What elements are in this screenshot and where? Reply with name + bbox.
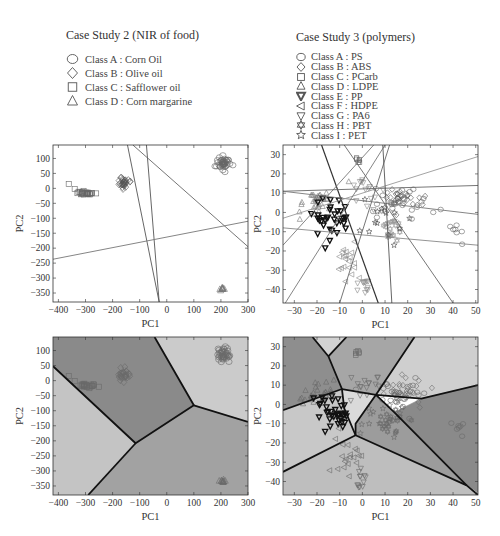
x-tick-label: 50 xyxy=(471,498,481,508)
x-tick-label: −30 xyxy=(287,498,302,508)
x-tick-label: 200 xyxy=(214,305,229,315)
x-tick-label: 50 xyxy=(471,306,481,316)
y-tick-label: −50 xyxy=(35,391,50,401)
y-tick-label: 30 xyxy=(271,150,281,160)
y-tick-label: −10 xyxy=(265,419,280,429)
x-tick-label: 0 xyxy=(360,498,365,508)
y-axis-label: PC2 xyxy=(14,407,25,425)
plot-area xyxy=(283,145,478,303)
x-tick-label: 20 xyxy=(403,306,413,316)
y-tick-label: −20 xyxy=(265,246,280,256)
x-tick-label: 30 xyxy=(426,498,436,508)
plot-food-lines: −400−300−200−1000100200300100500−50−100−… xyxy=(14,145,255,329)
y-tick-label: −250 xyxy=(30,258,50,268)
x-tick-label: 40 xyxy=(448,498,458,508)
y-tick-label: −200 xyxy=(30,243,50,253)
x-tick-label: −20 xyxy=(310,306,325,316)
x-tick-label: 0 xyxy=(164,305,169,315)
x-tick-label: 0 xyxy=(360,306,365,316)
y-tick-label: −30 xyxy=(265,266,280,276)
x-tick-label: −200 xyxy=(103,498,123,508)
y-tick-label: 20 xyxy=(271,361,281,371)
figure-canvas: −400−300−200−1000100200300100500−50−100−… xyxy=(0,0,500,536)
y-tick-label: 0 xyxy=(45,376,50,386)
x-axis-label: PC1 xyxy=(141,511,159,522)
y-tick-label: 10 xyxy=(271,188,281,198)
y-tick-label: −350 xyxy=(30,288,50,298)
y-tick-label: −150 xyxy=(30,229,50,239)
x-tick-label: −400 xyxy=(49,498,69,508)
x-axis-label: PC1 xyxy=(371,319,389,330)
y-tick-label: 10 xyxy=(271,380,281,390)
y-tick-label: −350 xyxy=(30,481,50,491)
y-tick-label: −300 xyxy=(30,273,50,283)
x-tick-label: −10 xyxy=(332,306,347,316)
y-tick-label: −250 xyxy=(30,451,50,461)
x-tick-label: −100 xyxy=(130,498,150,508)
y-tick-label: −40 xyxy=(265,477,280,487)
y-tick-label: 0 xyxy=(45,184,50,194)
y-tick-label: −200 xyxy=(30,436,50,446)
y-tick-label: 100 xyxy=(36,154,51,164)
x-tick-label: 10 xyxy=(380,498,390,508)
y-tick-label: −100 xyxy=(30,214,50,224)
x-tick-label: −100 xyxy=(130,305,150,315)
x-axis-label: PC1 xyxy=(371,511,389,522)
x-tick-label: −20 xyxy=(310,498,325,508)
x-tick-label: 300 xyxy=(241,498,256,508)
plot-polymer-lines: −30−20−10010203040503020100−10−20−30−40P… xyxy=(252,145,481,330)
y-tick-label: 50 xyxy=(41,361,51,371)
y-tick-label: 100 xyxy=(36,346,51,356)
y-tick-label: −40 xyxy=(265,285,280,295)
y-tick-label: −20 xyxy=(265,438,280,448)
y-axis-label: PC2 xyxy=(252,407,263,425)
x-tick-label: −30 xyxy=(287,306,302,316)
y-tick-label: −300 xyxy=(30,466,50,476)
y-tick-label: 30 xyxy=(271,342,281,352)
x-tick-label: −200 xyxy=(103,305,123,315)
y-axis-label: PC2 xyxy=(14,214,25,232)
y-tick-label: −100 xyxy=(30,406,50,416)
x-tick-label: −400 xyxy=(49,305,69,315)
y-tick-label: 0 xyxy=(275,208,280,218)
y-axis-label: PC2 xyxy=(252,215,263,233)
x-tick-label: 40 xyxy=(448,306,458,316)
x-tick-label: 100 xyxy=(187,305,202,315)
y-tick-label: −30 xyxy=(265,458,280,468)
x-tick-label: −300 xyxy=(76,498,96,508)
x-tick-label: 10 xyxy=(380,306,390,316)
y-tick-label: 50 xyxy=(41,169,51,179)
y-tick-label: 0 xyxy=(275,400,280,410)
x-tick-label: 200 xyxy=(214,498,229,508)
plot-polymer-regions: −30−20−10010203040503020100−10−20−30−40P… xyxy=(252,337,481,522)
x-tick-label: 300 xyxy=(241,305,256,315)
y-tick-label: −10 xyxy=(265,227,280,237)
y-tick-label: 20 xyxy=(271,169,281,179)
x-tick-label: −10 xyxy=(332,498,347,508)
y-tick-label: −150 xyxy=(30,421,50,431)
x-tick-label: 30 xyxy=(426,306,436,316)
x-tick-label: 0 xyxy=(164,498,169,508)
x-tick-label: −300 xyxy=(76,305,96,315)
plot-food-regions: −400−300−200−1000100200300100500−50−100−… xyxy=(14,337,255,522)
y-tick-label: −50 xyxy=(35,199,50,209)
x-tick-label: 100 xyxy=(187,498,202,508)
x-axis-label: PC1 xyxy=(141,318,159,329)
x-tick-label: 20 xyxy=(403,498,413,508)
